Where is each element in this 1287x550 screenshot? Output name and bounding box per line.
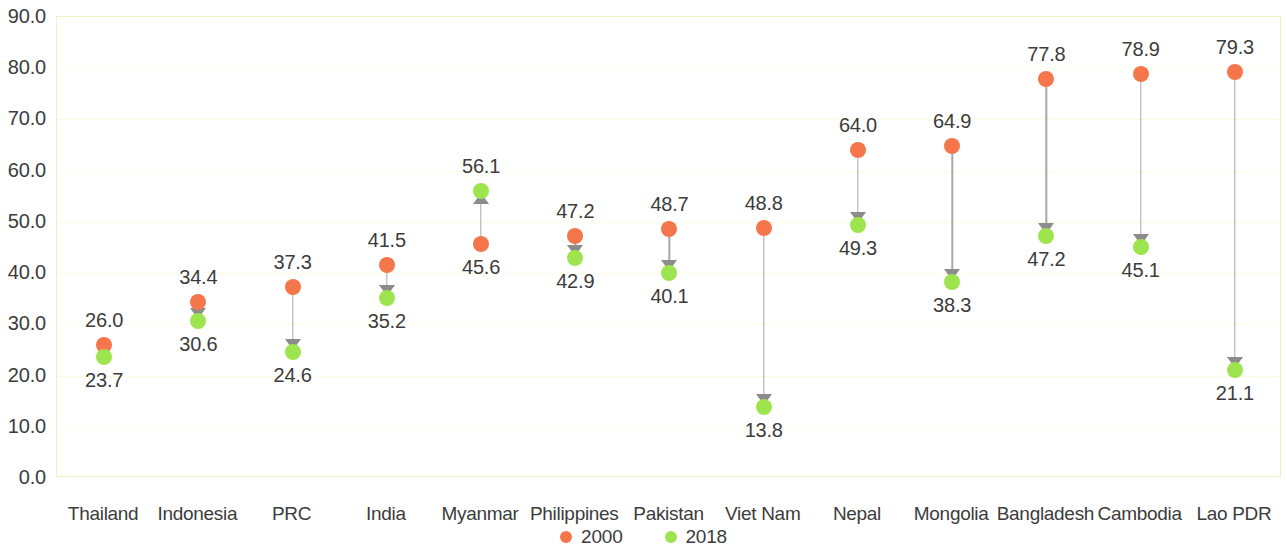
value-label-2018: 42.9 [556, 270, 594, 293]
legend-dot-2018-icon [665, 531, 677, 543]
value-label-2000: 77.8 [1027, 43, 1065, 66]
data-point-group[interactable]: 48.740.1 [622, 17, 716, 478]
y-axis-tick-label: 20.0 [0, 363, 46, 386]
x-axis-category-label: Indonesia [157, 503, 237, 525]
data-point-group[interactable]: 78.945.1 [1094, 17, 1188, 478]
data-point-2018[interactable] [473, 183, 489, 199]
data-point-2000[interactable] [190, 294, 206, 310]
legend-label-2018: 2018 [686, 526, 727, 548]
data-point-group[interactable]: 37.324.6 [245, 17, 339, 478]
legend-item-2018[interactable]: 2018 [665, 526, 727, 548]
data-point-group[interactable]: 41.535.2 [340, 17, 434, 478]
data-point-2000[interactable] [850, 142, 866, 158]
data-point-group[interactable]: 79.321.1 [1188, 17, 1282, 478]
data-point-2018[interactable] [1227, 362, 1243, 378]
chart-legend: 2000 2018 [0, 526, 1287, 548]
data-point-2000[interactable] [379, 257, 395, 273]
value-label-2018: 13.8 [745, 419, 783, 442]
value-label-2018: 24.6 [273, 364, 311, 387]
value-label-2000: 34.4 [179, 266, 217, 289]
value-label-2018: 47.2 [1027, 248, 1065, 271]
connector-line [1046, 79, 1047, 236]
data-point-2018[interactable] [190, 313, 206, 329]
data-point-group[interactable]: 77.847.2 [999, 17, 1093, 478]
value-label-2000: 79.3 [1216, 36, 1254, 59]
data-point-2018[interactable] [1038, 228, 1054, 244]
data-point-2018[interactable] [96, 349, 112, 365]
value-label-2018: 45.1 [1122, 259, 1160, 282]
y-axis-tick-label: 40.0 [0, 261, 46, 284]
x-axis-category-label: Myanmar [441, 503, 518, 525]
value-label-2000: 37.3 [273, 251, 311, 274]
data-point-group[interactable]: 64.938.3 [905, 17, 999, 478]
y-axis-tick-label: 10.0 [0, 414, 46, 437]
x-axis-category-label: Mongolia [914, 503, 989, 525]
x-axis-category-label: Cambodia [1098, 503, 1182, 525]
x-axis-category-label: Pakistan [633, 503, 703, 525]
connector-line [1234, 72, 1235, 370]
value-label-2000: 78.9 [1122, 38, 1160, 61]
x-axis-category-label: Viet Nam [725, 503, 800, 525]
value-label-2000: 64.9 [933, 110, 971, 133]
data-point-group[interactable]: 45.656.1 [434, 17, 528, 478]
legend-item-2000[interactable]: 2000 [560, 526, 622, 548]
data-point-2000[interactable] [1133, 66, 1149, 82]
value-label-2018: 23.7 [85, 369, 123, 392]
value-label-2000: 48.7 [650, 193, 688, 216]
data-point-group[interactable]: 34.430.6 [151, 17, 245, 478]
value-label-2018: 30.6 [179, 333, 217, 356]
data-point-2018[interactable] [285, 344, 301, 360]
value-label-2018: 49.3 [839, 237, 877, 260]
y-axis-tick-label: 90.0 [0, 5, 46, 28]
value-label-2000: 64.0 [839, 114, 877, 137]
data-point-2018[interactable] [379, 290, 395, 306]
data-point-group[interactable]: 26.023.7 [57, 17, 151, 478]
value-label-2018: 40.1 [650, 285, 688, 308]
y-axis-tick-label: 60.0 [0, 158, 46, 181]
data-point-2000[interactable] [285, 279, 301, 295]
y-axis-tick-label: 80.0 [0, 56, 46, 79]
y-axis-tick-label: 50.0 [0, 209, 46, 232]
data-point-2018[interactable] [756, 399, 772, 415]
y-axis-tick-label: 30.0 [0, 312, 46, 335]
value-label-2000: 41.5 [368, 229, 406, 252]
data-point-2000[interactable] [944, 138, 960, 154]
x-axis-category-label: Nepal [833, 503, 881, 525]
value-label-2000: 26.0 [85, 309, 123, 332]
value-label-2000: 45.6 [462, 256, 500, 279]
connector-line [951, 146, 952, 282]
legend-label-2000: 2000 [581, 526, 622, 548]
x-axis-category-label: PRC [272, 503, 311, 525]
dumbbell-chart: 26.023.734.430.637.324.641.535.245.656.1… [0, 0, 1287, 550]
data-point-2000[interactable] [756, 220, 772, 236]
x-axis-category-label: Lao PDR [1196, 503, 1271, 525]
connector-line [763, 228, 764, 407]
x-axis-category-label: Bangladesh [997, 503, 1094, 525]
y-axis-tick-label: 0.0 [0, 466, 46, 489]
value-label-2018: 38.3 [933, 294, 971, 317]
data-point-2018[interactable] [850, 217, 866, 233]
x-axis-category-label: India [366, 503, 406, 525]
value-label-2018: 56.1 [462, 155, 500, 178]
legend-dot-2000-icon [560, 531, 572, 543]
data-point-2000[interactable] [1227, 64, 1243, 80]
data-point-2018[interactable] [944, 274, 960, 290]
data-point-group[interactable]: 48.813.8 [717, 17, 811, 478]
data-point-2018[interactable] [661, 265, 677, 281]
data-point-group[interactable]: 64.049.3 [811, 17, 905, 478]
value-label-2018: 21.1 [1216, 382, 1254, 405]
value-label-2018: 35.2 [368, 310, 406, 333]
data-point-2000[interactable] [473, 236, 489, 252]
data-point-2018[interactable] [1133, 239, 1149, 255]
value-label-2000: 48.8 [745, 192, 783, 215]
data-point-2000[interactable] [1038, 71, 1054, 87]
data-point-group[interactable]: 47.242.9 [528, 17, 622, 478]
plot-area: 26.023.734.430.637.324.641.535.245.656.1… [56, 16, 1281, 477]
data-point-2000[interactable] [567, 228, 583, 244]
value-label-2000: 47.2 [556, 200, 594, 223]
x-axis-category-label: Thailand [68, 503, 138, 525]
x-axis-category-label: Philippines [530, 503, 619, 525]
data-point-2000[interactable] [661, 221, 677, 237]
data-point-2018[interactable] [567, 250, 583, 266]
y-axis-tick-label: 70.0 [0, 107, 46, 130]
